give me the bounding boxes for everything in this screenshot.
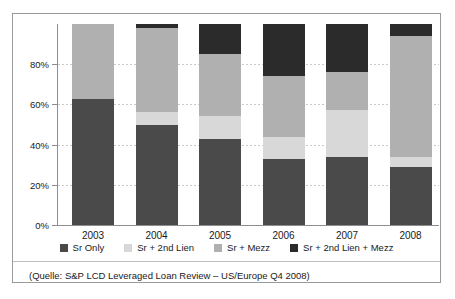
y-axis-line	[57, 24, 58, 226]
plot-area: 0%20%40%60%80% 200320042005200620072008	[57, 24, 439, 226]
legend-swatch-icon	[290, 244, 298, 252]
y-axis-label: 0%	[35, 220, 49, 231]
bar-segment[interactable]	[199, 139, 241, 225]
bar-segment[interactable]	[263, 159, 305, 225]
legend-item[interactable]: Sr + 2nd Lien	[124, 242, 194, 253]
y-axis-tick	[52, 64, 57, 65]
x-axis-label: 2008	[390, 230, 432, 241]
y-axis-label: 40%	[30, 139, 49, 150]
x-axis-label: 2007	[326, 230, 368, 241]
bar-segment[interactable]	[390, 167, 432, 225]
bar-segment[interactable]	[326, 72, 368, 110]
bar-segment[interactable]	[199, 54, 241, 116]
bar-segment[interactable]	[199, 24, 241, 54]
bar-segment[interactable]	[136, 28, 178, 112]
bar-segment[interactable]	[199, 116, 241, 138]
gridline	[58, 145, 439, 146]
legend-label: Sr + 2nd Lien + Mezz	[303, 242, 393, 253]
bar-segment[interactable]	[390, 36, 432, 157]
stacked-bar[interactable]	[263, 24, 305, 225]
stacked-bar[interactable]	[326, 24, 368, 225]
x-axis-label: 2005	[199, 230, 241, 241]
y-axis-label: 20%	[30, 179, 49, 190]
stacked-bar[interactable]	[390, 24, 432, 225]
bar-segment[interactable]	[326, 110, 368, 156]
y-axis-tick	[52, 185, 57, 186]
y-axis-tick	[52, 104, 57, 105]
bar-segment[interactable]	[263, 24, 305, 76]
bar-segment[interactable]	[390, 24, 432, 36]
bar-segment[interactable]	[326, 24, 368, 72]
legend-item[interactable]: Sr + Mezz	[214, 242, 270, 253]
bar-segment[interactable]	[390, 157, 432, 167]
gridline	[58, 64, 439, 65]
source-divider	[13, 261, 440, 262]
bar-segment[interactable]	[136, 125, 178, 226]
y-axis-label: 60%	[30, 99, 49, 110]
bar-segment[interactable]	[136, 112, 178, 124]
legend-label: Sr Only	[73, 242, 105, 253]
gridline	[58, 104, 439, 105]
bar-segment[interactable]	[72, 99, 114, 225]
x-axis-line	[57, 225, 439, 226]
y-axis-tick	[52, 145, 57, 146]
bar-segment[interactable]	[72, 24, 114, 99]
bar-segment[interactable]	[263, 137, 305, 159]
stacked-bar[interactable]	[199, 24, 241, 225]
stacked-bar[interactable]	[136, 24, 178, 225]
legend-swatch-icon	[214, 244, 222, 252]
y-axis-label: 80%	[30, 59, 49, 70]
legend-label: Sr + 2nd Lien	[137, 242, 194, 253]
legend-label: Sr + Mezz	[227, 242, 270, 253]
source-note: (Quelle: S&P LCD Leveraged Loan Review –…	[29, 270, 310, 281]
legend-swatch-icon	[60, 244, 68, 252]
legend-item[interactable]: Sr Only	[60, 242, 105, 253]
gridline	[58, 185, 439, 186]
chart-legend: Sr OnlySr + 2nd LienSr + MezzSr + 2nd Li…	[13, 242, 440, 253]
bar-segment[interactable]	[326, 157, 368, 225]
x-axis-label: 2004	[136, 230, 178, 241]
legend-item[interactable]: Sr + 2nd Lien + Mezz	[290, 242, 393, 253]
chart-frame: 0%20%40%60%80% 200320042005200620072008 …	[12, 13, 441, 283]
legend-swatch-icon	[124, 244, 132, 252]
bar-segment[interactable]	[263, 76, 305, 136]
y-axis-tick	[52, 225, 57, 226]
x-axis-label: 2006	[263, 230, 305, 241]
x-axis-label: 2003	[72, 230, 114, 241]
stacked-bar[interactable]	[72, 24, 114, 225]
